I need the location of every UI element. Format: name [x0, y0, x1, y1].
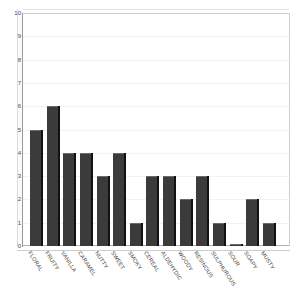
bar-group	[213, 13, 229, 246]
y-tick-label: 9	[3, 33, 21, 39]
x-axis-label: SWEET	[110, 250, 126, 271]
bar-group	[30, 13, 46, 246]
bar-side-face	[191, 199, 193, 246]
bar	[180, 199, 191, 246]
y-tick-label: 8	[3, 57, 21, 63]
y-tick-label: 5	[3, 127, 21, 133]
bar-side-face	[108, 176, 110, 246]
bar-side-face	[174, 176, 176, 246]
y-tick-label: 10	[3, 10, 21, 16]
bar-chart: 109876543210 FLORALFRUITYVANILLACARAMELN…	[0, 0, 305, 308]
bar-group	[263, 13, 279, 246]
bar-side-face	[257, 199, 259, 246]
bar	[130, 223, 141, 246]
bar	[246, 199, 257, 246]
bar	[113, 153, 124, 246]
bar-side-face	[274, 223, 276, 246]
bar-side-face	[124, 153, 126, 246]
bar-side-face	[41, 130, 43, 247]
y-tick-label: 2	[3, 196, 21, 202]
bar-side-face	[157, 176, 159, 246]
bar-group	[230, 13, 246, 246]
bar	[213, 223, 224, 246]
bar-group	[130, 13, 146, 246]
y-tick-label: 0	[3, 243, 21, 249]
y-tick-label: 1	[3, 220, 21, 226]
bar-side-face	[58, 106, 60, 246]
bar-group	[97, 13, 113, 246]
bar-side-face	[207, 176, 209, 246]
x-axis-label: CEREAL	[143, 250, 161, 273]
x-axis-label: FRUITY	[44, 250, 61, 271]
x-axis-label: FLORAL	[27, 250, 44, 272]
bar-group	[47, 13, 63, 246]
y-tick-label: 3	[3, 173, 21, 179]
bar-side-face	[74, 153, 76, 246]
bar	[63, 153, 74, 246]
bar-group	[196, 13, 212, 246]
x-axis-label: NUTTY	[93, 250, 109, 270]
bar-group	[180, 13, 196, 246]
bar-group	[163, 13, 179, 246]
x-axis-label: WOODY	[177, 250, 194, 272]
bar-group	[146, 13, 162, 246]
bar-side-face	[141, 223, 143, 246]
x-axis-label: SOUR	[227, 250, 241, 267]
y-tick-label: 6	[3, 103, 21, 109]
bar	[230, 244, 241, 246]
x-axis-label: VANILLA	[60, 250, 78, 273]
bar	[80, 153, 91, 246]
y-axis-ticks: 109876543210	[0, 0, 21, 308]
bar	[97, 176, 108, 246]
x-axis-label: MUSTY	[260, 250, 276, 270]
y-tick-label: 4	[3, 150, 21, 156]
bars-container	[23, 13, 290, 246]
x-axis-label: SMOKY	[127, 250, 143, 271]
bar-group	[80, 13, 96, 246]
bar-side-face	[224, 223, 226, 246]
bar-group	[63, 13, 79, 246]
bar	[47, 106, 58, 246]
bar-group	[113, 13, 129, 246]
bar-side-face	[91, 153, 93, 246]
bar	[146, 176, 157, 246]
bar	[196, 176, 207, 246]
x-axis-label: SOAPY	[243, 250, 259, 270]
bar-side-face	[241, 244, 243, 246]
bar	[30, 130, 41, 247]
bar	[163, 176, 174, 246]
x-axis-labels: FLORALFRUITYVANILLACARAMELNUTTYSWEETSMOK…	[23, 250, 290, 308]
bar-group	[246, 13, 262, 246]
bar	[263, 223, 274, 246]
y-tick-label: 7	[3, 80, 21, 86]
